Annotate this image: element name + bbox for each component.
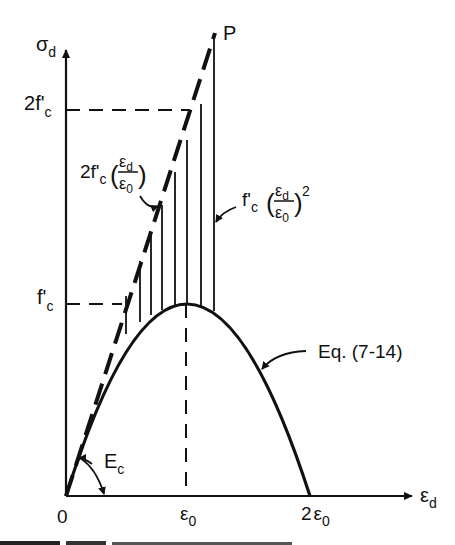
y-tick-2fc: 2f'c bbox=[24, 92, 52, 120]
stress-strain-diagram: σd εd 0 ε0 2ε0 2f'c f'c P 2f'c ( εd ε0 )… bbox=[0, 0, 455, 545]
svg-text:ε0: ε0 bbox=[275, 204, 289, 225]
svg-text:(: ( bbox=[110, 160, 119, 190]
modulus-label: Ec bbox=[104, 450, 124, 477]
quadratic-annotation: f'c ( εd ε0 ) 2 bbox=[242, 182, 310, 225]
svg-text:2f'c: 2f'c bbox=[80, 161, 106, 187]
y-axis-label: σd bbox=[36, 33, 56, 60]
svg-text:(: ( bbox=[266, 188, 275, 218]
x-axis-label: εd bbox=[420, 484, 437, 511]
point-p-label: P bbox=[223, 22, 236, 44]
linear-annotation: 2f'c ( εd ε0 ) bbox=[80, 153, 147, 196]
y-tick-fc: f'c bbox=[37, 286, 53, 314]
linear-annotation-arrow bbox=[140, 196, 158, 207]
svg-text:ε0: ε0 bbox=[119, 175, 133, 196]
cropped-caption-strip bbox=[0, 538, 455, 545]
origin-label: 0 bbox=[57, 506, 68, 527]
svg-text:εd: εd bbox=[119, 153, 133, 174]
x-tick-2epsilon0: 2ε0 bbox=[301, 503, 330, 529]
curve-equation-label: Eq. (7-14) bbox=[318, 341, 402, 362]
curve-eq-arrow bbox=[262, 351, 306, 369]
svg-text:2: 2 bbox=[302, 183, 310, 199]
x-tick-epsilon0: ε0 bbox=[180, 503, 196, 529]
secant-line-2fc bbox=[66, 33, 215, 496]
quadratic-annotation-arrow bbox=[216, 207, 236, 222]
svg-text:f'c: f'c bbox=[242, 189, 258, 215]
svg-text:εd: εd bbox=[275, 182, 289, 203]
svg-text:): ) bbox=[138, 160, 147, 190]
parabola-curve bbox=[66, 304, 310, 496]
